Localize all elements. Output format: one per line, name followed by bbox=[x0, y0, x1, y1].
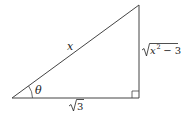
opposite-label: x 2 − 3 bbox=[142, 43, 181, 56]
opposite-rest: − 3 bbox=[160, 45, 181, 56]
adjacent-label: 3 bbox=[69, 100, 84, 113]
right-triangle-diagram: θ x 3 x 2 − 3 bbox=[0, 0, 191, 116]
hypotenuse-line bbox=[12, 5, 139, 98]
angle-arc bbox=[29, 86, 33, 98]
angle-label: θ bbox=[35, 84, 42, 97]
opposite-base: x bbox=[150, 45, 156, 56]
hypotenuse-label: x bbox=[67, 40, 74, 53]
adjacent-radicand: 3 bbox=[77, 101, 83, 112]
right-angle-marker bbox=[132, 91, 139, 98]
